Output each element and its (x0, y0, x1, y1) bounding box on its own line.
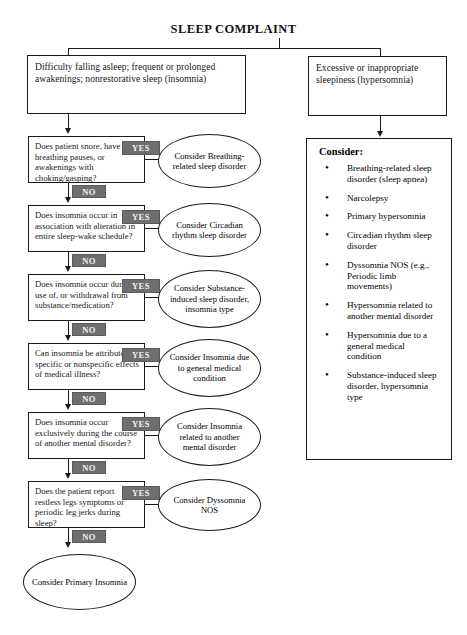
list-item: Primary hypersomnia (321, 211, 441, 222)
outcome-oval-5-label: Consider Insomnia related to another men… (159, 421, 260, 452)
tag-yes-2: YES (122, 210, 160, 224)
connector-split-bar (68, 48, 380, 49)
outcome-oval-2-label: Consider Circadian rhythm sleep disorder (159, 220, 260, 241)
arrow-q2-no (65, 266, 71, 272)
connector-q4-no (68, 390, 69, 405)
outcome-oval-6-label: Consider Dyssomnia NOS (159, 495, 260, 516)
arrow-q5-no (65, 473, 71, 479)
arrow-left-to-q1 (65, 128, 71, 134)
tag-yes-6: YES (122, 486, 160, 500)
connector-q1-no (68, 183, 69, 198)
arrow-q4-no (65, 404, 71, 410)
tag-yes-1: YES (122, 141, 160, 155)
tag-no-6: NO (72, 530, 106, 543)
connector-q3-no (68, 321, 69, 336)
connector-q6-no (68, 528, 69, 543)
list-item: Dyssomnia NOS (e.g., Periodic limb movem… (321, 260, 441, 292)
tag-no-5: NO (72, 461, 106, 474)
connector-title-stem (279, 38, 280, 48)
arrow-q1-no (65, 197, 71, 203)
connector-split-right (380, 48, 381, 56)
list-item: Breathing-related sleep disorder (sleep … (321, 163, 441, 185)
tag-yes-5: YES (122, 417, 160, 431)
outcome-oval-2: Consider Circadian rhythm sleep disorder (158, 203, 261, 257)
flowchart-canvas: SLEEP COMPLAINT Difficulty falling aslee… (0, 0, 467, 635)
arrow-q6-no (65, 542, 71, 548)
terminal-oval-primary-insomnia: Consider Primary Insomnia (23, 554, 136, 610)
tag-no-3: NO (72, 323, 106, 336)
page-title: SLEEP COMPLAINT (0, 22, 467, 37)
branch-box-hypersomnia-label: Excessive or inappropriate sleepiness (h… (309, 57, 446, 89)
tag-yes-3: YES (122, 279, 160, 293)
outcome-oval-4: Consider Insomnia due to general medical… (158, 339, 261, 397)
outcome-oval-6: Consider Dyssomnia NOS (158, 479, 261, 531)
list-item: Circadian rhythm sleep disorder (321, 230, 441, 252)
branch-box-insomnia: Difficulty falling asleep; frequent or p… (27, 55, 246, 114)
arrow-right-to-panel (377, 131, 383, 137)
list-item: Hypersomnia related to another mental di… (321, 300, 441, 322)
tag-no-4: NO (72, 392, 106, 405)
connector-q2-no (68, 252, 69, 267)
list-item: Substance-induced sleep disorder, hypers… (321, 370, 441, 402)
outcome-oval-1: Consider Breathing-related sleep disorde… (158, 134, 261, 188)
connector-left-to-q1 (68, 114, 69, 129)
list-item: Narcolepsy (321, 193, 441, 204)
consider-panel-list: Breathing-related sleep disorder (sleep … (307, 157, 451, 403)
branch-box-hypersomnia: Excessive or inappropriate sleepiness (h… (308, 56, 447, 116)
terminal-oval-label: Consider Primary Insomnia (24, 577, 135, 587)
connector-right-to-panel (380, 116, 381, 132)
outcome-oval-3-label: Consider Substance-induced sleep disorde… (159, 283, 260, 314)
consider-panel-heading: Consider: (307, 139, 451, 157)
outcome-oval-4-label: Consider Insomnia due to general medical… (159, 352, 260, 383)
tag-no-1: NO (72, 185, 106, 198)
connector-q5-no (68, 459, 69, 474)
list-item: Hypersomnia due to a general medical con… (321, 330, 441, 362)
outcome-oval-1-label: Consider Breathing-related sleep disorde… (159, 151, 260, 172)
outcome-oval-3: Consider Substance-induced sleep disorde… (158, 270, 261, 328)
arrow-q3-no (65, 335, 71, 341)
outcome-oval-5: Consider Insomnia related to another men… (158, 408, 261, 466)
branch-box-insomnia-label: Difficulty falling asleep; frequent or p… (28, 56, 245, 88)
consider-panel: Consider: Breathing-related sleep disord… (306, 138, 452, 460)
tag-no-2: NO (72, 254, 106, 267)
tag-yes-4: YES (122, 348, 160, 362)
